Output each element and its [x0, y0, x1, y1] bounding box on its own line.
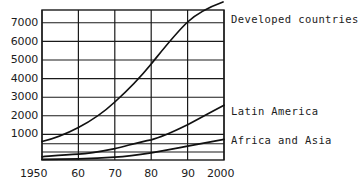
ytick-label-4000: 4000 [2, 73, 38, 84]
series-line-latin-america [42, 105, 224, 157]
xtick-label-1970: 70 [105, 168, 125, 179]
data-series [42, 2, 224, 159]
ytick-label-2000: 2000 [2, 110, 38, 121]
ytick-label-5000: 5000 [2, 54, 38, 65]
xtick-label-1960: 60 [68, 168, 88, 179]
xtick-label-2000: 2000 [207, 168, 233, 179]
series-label-developed-countries: Developed countries [231, 13, 358, 25]
ytick-label-1000: 1000 [2, 128, 38, 139]
xtick-label-1950: 1950 [20, 168, 46, 179]
chart-figure: 7000 6000 5000 4000 3000 2000 1000 1950 … [0, 0, 358, 189]
chart-canvas [0, 0, 358, 189]
xtick-label-1980: 80 [141, 168, 161, 179]
series-line-africa-and-asia [42, 139, 224, 159]
xtick-label-1990: 90 [178, 168, 198, 179]
ytick-label-6000: 6000 [2, 36, 38, 47]
ytick-label-7000: 7000 [2, 17, 38, 28]
series-label-latin-america: Latin America [231, 105, 318, 117]
ytick-label-3000: 3000 [2, 91, 38, 102]
series-label-africa-and-asia: Africa and Asia [231, 134, 332, 146]
